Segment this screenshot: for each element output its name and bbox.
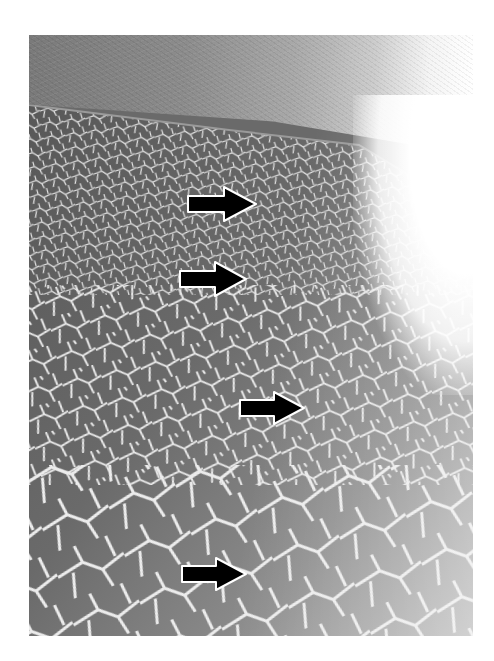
arrow-icon <box>178 260 248 298</box>
arrow-icon <box>180 556 248 592</box>
light-glare <box>353 95 473 395</box>
mosaic-floor-photo <box>29 35 473 636</box>
arrow-icon <box>238 390 306 426</box>
arrow-icon <box>186 185 258 223</box>
